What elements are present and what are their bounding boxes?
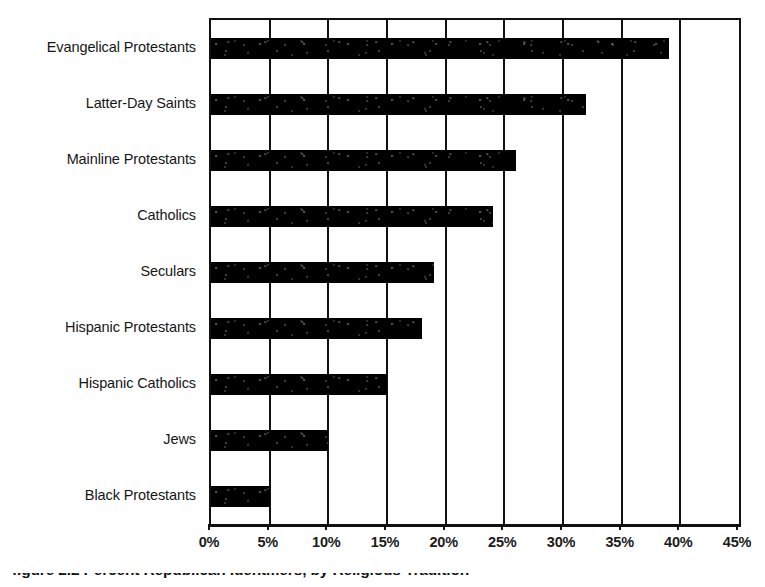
bar xyxy=(211,374,387,395)
x-axis-tick-label: 10% xyxy=(296,533,356,551)
bar xyxy=(211,150,516,171)
x-axis-tick-label: 25% xyxy=(472,533,532,551)
bar-series xyxy=(211,20,739,524)
figure-caption-clipped: figure 2.2 Percent Republican Identifier… xyxy=(0,573,765,587)
x-axis-tick-label: 15% xyxy=(355,533,415,551)
x-axis-tick-label: 20% xyxy=(414,533,474,551)
category-label: Catholics xyxy=(0,207,196,223)
x-axis-tick-label: 5% xyxy=(238,533,298,551)
category-label: Hispanic Protestants xyxy=(0,319,196,335)
x-axis-tick xyxy=(384,524,386,530)
category-label: Jews xyxy=(0,431,196,447)
bar xyxy=(211,262,434,283)
figure-caption-text: figure 2.2 Percent Republican Identifier… xyxy=(12,573,757,580)
bar xyxy=(211,486,270,507)
category-label: Black Protestants xyxy=(0,487,196,503)
x-axis-line xyxy=(209,524,741,527)
x-axis-tick xyxy=(443,524,445,530)
x-axis-tick xyxy=(267,524,269,530)
x-axis-tick xyxy=(501,524,503,530)
x-axis-tick-labels: 0%5%10%15%20%25%30%35%40%45% xyxy=(0,533,765,555)
x-axis-tick xyxy=(208,524,210,530)
bar xyxy=(211,318,422,339)
bar xyxy=(211,38,669,59)
x-axis-tick xyxy=(560,524,562,530)
category-label: Evangelical Protestants xyxy=(0,39,196,55)
x-axis-tick xyxy=(736,524,738,530)
x-axis-tick xyxy=(619,524,621,530)
category-label: Mainline Protestants xyxy=(0,151,196,167)
x-axis-tick xyxy=(677,524,679,530)
x-axis-tick-label: 40% xyxy=(648,533,708,551)
category-label: Hispanic Catholics xyxy=(0,375,196,391)
x-axis-tick-label: 35% xyxy=(590,533,650,551)
x-axis-tick-label: 0% xyxy=(179,533,239,551)
category-label: Seculars xyxy=(0,263,196,279)
plot-area xyxy=(209,18,741,526)
x-axis-tick-label: 45% xyxy=(707,533,765,551)
category-axis-labels: Evangelical ProtestantsLatter-Day Saints… xyxy=(0,18,200,522)
bar xyxy=(211,430,328,451)
x-axis-tick xyxy=(325,524,327,530)
bar xyxy=(211,206,493,227)
bar xyxy=(211,94,586,115)
category-label: Latter-Day Saints xyxy=(0,95,196,111)
bar-chart-figure: Evangelical ProtestantsLatter-Day Saints… xyxy=(0,0,765,587)
x-axis-tick-label: 30% xyxy=(531,533,591,551)
x-axis xyxy=(209,524,741,528)
